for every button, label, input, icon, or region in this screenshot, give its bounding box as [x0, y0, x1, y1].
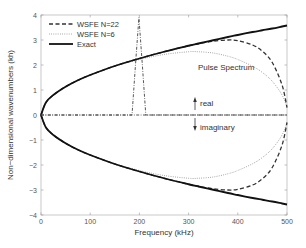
legend-label-exact: Exact	[77, 40, 97, 49]
y-tick-label: 2	[33, 62, 37, 69]
y-axis-label: Non−dimensional wavenumbers (kh)	[6, 50, 15, 180]
y-tick-label: 4	[33, 12, 37, 19]
pulse-spectrum-annotation: Pulse Spectrum	[198, 63, 255, 72]
y-tick-label: −2	[29, 162, 37, 169]
x-tick-label: 0	[39, 218, 43, 225]
x-tick-label: 400	[232, 218, 244, 225]
y-tick-label: 0	[33, 112, 37, 119]
imaginary-annotation: imaginary	[200, 123, 235, 132]
legend-label-n6: WSFE N=6	[77, 30, 115, 39]
y-tick-label: −4	[29, 212, 37, 219]
x-tick-label: 500	[281, 218, 293, 225]
legend-label-n22: WSFE N=22	[77, 20, 119, 29]
real-annotation: real	[200, 99, 214, 108]
y-tick-label: −3	[29, 187, 37, 194]
x-tick-label: 300	[183, 218, 195, 225]
x-tick-label: 200	[134, 218, 146, 225]
wavenumber-chart: 0100200300400500−4−3−2−101234 Frequency …	[0, 0, 306, 248]
x-axis-label: Frequency (kHz)	[134, 228, 193, 237]
y-tick-label: 3	[33, 37, 37, 44]
y-tick-label: −1	[29, 137, 37, 144]
y-tick-label: 1	[33, 87, 37, 94]
x-tick-label: 100	[84, 218, 96, 225]
